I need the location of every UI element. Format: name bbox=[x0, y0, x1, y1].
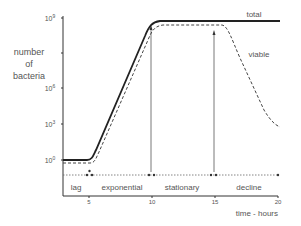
y-axis-title: number bbox=[14, 47, 45, 57]
series-label-viable: viable bbox=[249, 50, 270, 59]
series-total bbox=[63, 21, 280, 160]
y-tick-label: 109 bbox=[45, 13, 56, 22]
series-viable bbox=[63, 25, 280, 163]
y-tick-label: 106 bbox=[45, 83, 56, 92]
y-tick-label: 100 bbox=[45, 155, 56, 164]
y-tick-label: 103 bbox=[45, 119, 56, 128]
phase-label-decline: decline bbox=[236, 183, 262, 192]
phase-label-lag: lag bbox=[71, 183, 82, 192]
x-tick-label: 20 bbox=[275, 199, 282, 205]
y-axis-title: of bbox=[25, 59, 33, 69]
x-tick-label: 5 bbox=[87, 199, 91, 205]
x-axis-title: time - hours bbox=[236, 209, 278, 218]
series-label-total: total bbox=[246, 10, 261, 19]
phase-label-exponential: exponential bbox=[102, 183, 143, 192]
y-axis-title: bacteria bbox=[13, 71, 45, 81]
growth-curve-chart: 109 106 103 100 number of bacteria 5 10 … bbox=[0, 0, 301, 226]
phase-label-stationary: stationary bbox=[165, 183, 200, 192]
x-tick-label: 15 bbox=[212, 199, 219, 205]
x-tick-label: 10 bbox=[149, 199, 156, 205]
